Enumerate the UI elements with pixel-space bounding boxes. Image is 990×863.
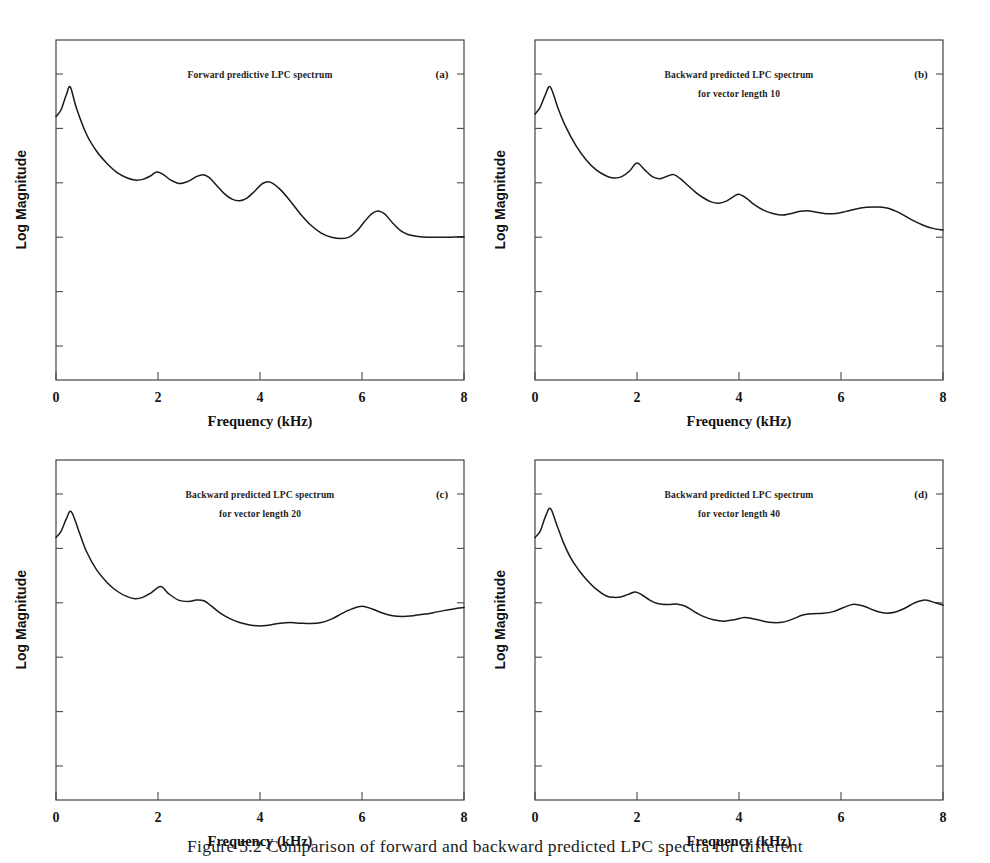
x-axis-ticks: 02468 (532, 372, 947, 405)
panel-title-line: for vector length 20 (219, 509, 301, 519)
figure-caption: Figure 5.2 Comparison of forward and bac… (0, 836, 990, 857)
panel-title-line: for vector length 10 (698, 89, 780, 99)
x-tick-label: 6 (838, 390, 845, 405)
x-tick-label: 8 (461, 810, 468, 825)
x-tick-label: 8 (940, 390, 947, 405)
x-tick-label: 0 (532, 390, 539, 405)
x-tick-label: 4 (736, 810, 743, 825)
spectrum-curve (535, 508, 943, 623)
x-axis-ticks: 02468 (532, 792, 947, 825)
x-tick-label: 0 (53, 810, 60, 825)
x-axis-ticks: 02468 (53, 372, 468, 405)
panel-tag: (d) (914, 488, 928, 501)
x-tick-label: 6 (359, 810, 366, 825)
x-tick-label: 4 (736, 390, 743, 405)
x-tick-label: 2 (634, 390, 641, 405)
spectrum-curve (56, 511, 464, 626)
x-tick-label: 0 (53, 390, 60, 405)
x-axis-ticks: 02468 (53, 792, 468, 825)
panel-tag: (b) (914, 68, 928, 81)
plot-panel-d: 02468Frequency (kHz)Log MagnitudeBackwar… (487, 438, 965, 838)
panel-title: Forward predictive LPC spectrum (187, 70, 332, 80)
x-axis-label: Frequency (kHz) (687, 413, 792, 430)
y-axis-ticks (535, 74, 943, 346)
panel-title: Backward predicted LPC spectrumfor vecto… (665, 70, 814, 99)
y-axis-ticks (56, 494, 464, 766)
plot-panel-a: 02468Frequency (kHz)Log MagnitudeForward… (8, 18, 486, 418)
panel-tag: (c) (436, 488, 449, 501)
y-axis-ticks (56, 74, 464, 346)
y-axis-label: Log Magnitude (492, 150, 508, 250)
y-axis-label: Log Magnitude (492, 570, 508, 670)
x-tick-label: 8 (940, 810, 947, 825)
x-tick-label: 4 (257, 810, 264, 825)
plot-frame (56, 40, 464, 380)
y-axis-label: Log Magnitude (13, 150, 29, 250)
y-axis-label: Log Magnitude (13, 570, 29, 670)
panel-title-line: Backward predicted LPC spectrum (665, 490, 814, 500)
spectrum-curve (535, 87, 943, 231)
x-tick-label: 6 (838, 810, 845, 825)
spectrum-curve (56, 86, 464, 238)
y-axis-ticks (535, 494, 943, 766)
x-tick-label: 2 (155, 810, 162, 825)
x-tick-label: 6 (359, 390, 366, 405)
figure-container: 02468Frequency (kHz)Log MagnitudeForward… (0, 0, 990, 863)
panel-title: Backward predicted LPC spectrumfor vecto… (186, 490, 335, 519)
panel-title-line: Forward predictive LPC spectrum (187, 70, 332, 80)
x-tick-label: 8 (461, 390, 468, 405)
plot-panel-b: 02468Frequency (kHz)Log MagnitudeBackwar… (487, 18, 965, 418)
x-tick-label: 0 (532, 810, 539, 825)
x-tick-label: 2 (155, 390, 162, 405)
x-axis-label: Frequency (kHz) (208, 413, 313, 430)
panel-title-line: for vector length 40 (698, 509, 780, 519)
x-tick-label: 4 (257, 390, 264, 405)
panel-title: Backward predicted LPC spectrumfor vecto… (665, 490, 814, 519)
panel-title-line: Backward predicted LPC spectrum (186, 490, 335, 500)
x-tick-label: 2 (634, 810, 641, 825)
panel-tag: (a) (436, 68, 449, 81)
panel-title-line: Backward predicted LPC spectrum (665, 70, 814, 80)
plot-panel-c: 02468Frequency (kHz)Log MagnitudeBackwar… (8, 438, 486, 838)
